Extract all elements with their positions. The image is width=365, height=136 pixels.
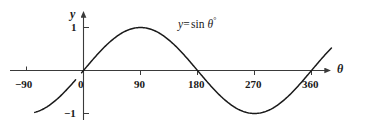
y-axis-label: y xyxy=(70,8,75,20)
x-axis-label: θ xyxy=(337,63,343,75)
degree-symbol: ° xyxy=(213,16,216,25)
y-tick-label-pos1: 1 xyxy=(71,22,77,33)
x-tick-label-0: 0 xyxy=(78,79,84,90)
sine-graph-figure: y θ y= sin θ° −90 0 90 180 270 360 1 −1 xyxy=(0,0,365,136)
x-tick-label-270: 270 xyxy=(245,79,262,90)
x-tick-label-180: 180 xyxy=(188,79,205,90)
equation-equals: = xyxy=(183,18,190,30)
x-tick-label-360: 360 xyxy=(302,79,319,90)
x-tick-label-90: 90 xyxy=(134,79,145,90)
y-tick-label-neg1: −1 xyxy=(64,108,76,119)
x-tick-label-neg90: −90 xyxy=(15,79,32,90)
equation-annotation: y= sin θ° xyxy=(178,17,217,30)
equation-function: sin xyxy=(191,18,205,30)
